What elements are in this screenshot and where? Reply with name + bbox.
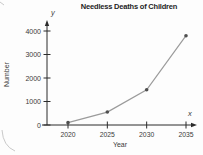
data-point	[145, 88, 149, 92]
line-chart: 010002000300040002020202520302035	[0, 0, 203, 155]
y-tick-label: 1000	[25, 98, 41, 105]
x-tick-label: 2020	[60, 131, 75, 138]
x-tick-label: 2030	[139, 131, 154, 138]
y-axis-arrowhead	[45, 20, 49, 26]
x-axis-arrowhead	[191, 123, 197, 127]
x-tick-label: 2035	[178, 131, 193, 138]
chart-card: Needless Deaths of Children Number y x 0…	[0, 0, 203, 155]
y-tick-label: 0	[37, 122, 41, 129]
data-point	[66, 121, 70, 125]
data-point	[184, 34, 188, 38]
y-tick-label: 2000	[25, 75, 41, 82]
y-tick-label: 3000	[25, 51, 41, 58]
data-line	[68, 36, 186, 123]
x-tick-label: 2025	[100, 131, 115, 138]
x-axis-label: Year	[90, 141, 150, 148]
page-mark-artifact	[0, 2, 4, 5]
y-tick-label: 4000	[25, 28, 41, 35]
data-point	[106, 110, 110, 114]
card-corner-artifact	[2, 130, 15, 151]
